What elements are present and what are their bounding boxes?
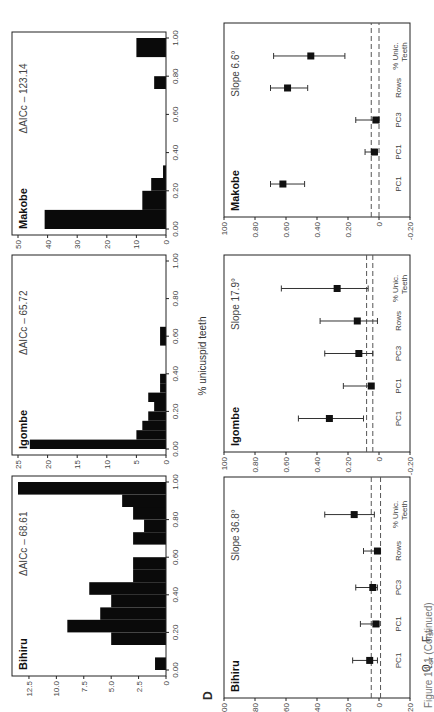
y-tick-label: 100	[220, 456, 229, 470]
y-tick-label: 0	[162, 459, 171, 464]
figure-caption: Figure 14.1 (Continued)	[423, 602, 434, 708]
panel-title: Bihiru	[229, 660, 241, 692]
y-tick-label: 20	[44, 459, 53, 468]
x-tick-label: 0.20	[171, 182, 180, 198]
histogram-bar	[111, 632, 166, 645]
y-tick-label: 12.5	[25, 680, 34, 696]
qst-panel-makobe: -0.2000.200.400.600.80100PC1PC1PC3Rows% …	[220, 23, 415, 240]
y-tick-label: 0.40	[313, 221, 322, 237]
category-label: Teeth	[400, 275, 409, 295]
x-tick-label: 0.00	[171, 662, 180, 678]
y-tick-label: 10	[132, 239, 141, 248]
histogram-bar	[154, 402, 166, 411]
y-tick-label: 0.60	[282, 456, 291, 472]
y-tick-label: 0.20	[344, 702, 353, 712]
qst-point	[372, 117, 379, 124]
y-tick-label: -0.20	[406, 456, 415, 475]
x-tick-label: 0.40	[171, 365, 180, 381]
figure-canvas: 0.000.200.400.600.801.0002.55.07.510.012…	[0, 0, 434, 712]
histogram-bar	[148, 393, 166, 402]
histogram-bar	[100, 607, 166, 619]
histogram-bar	[133, 532, 166, 544]
category-label: Rows	[394, 78, 403, 98]
qst-point	[366, 657, 373, 664]
y-tick-label: 0.80	[251, 221, 260, 237]
histogram-row: 0.000.200.400.600.801.0002.55.07.510.012…	[12, 30, 180, 697]
x-tick-label: 0.20	[171, 624, 180, 640]
rotated-figure: 0.000.200.400.600.801.0002.55.07.510.012…	[0, 0, 434, 712]
y-tick-label: 0.80	[251, 456, 260, 472]
x-tick-label: 0.60	[171, 549, 180, 565]
x-tick-label: 0.60	[171, 106, 180, 122]
x-tick-label: 1.00	[171, 253, 180, 269]
panel-title: Makobe	[229, 170, 241, 211]
qst-panel-bihiru: -0.2000.200.400.600.80100PC1PC1PC3Rows% …	[220, 477, 415, 712]
qst-point	[334, 285, 341, 292]
qst-point	[368, 383, 375, 390]
panel-title: Bihiru	[17, 638, 29, 670]
x-tick-label: 0.20	[171, 403, 180, 419]
histogram-bar	[142, 191, 166, 210]
histogram-bar	[45, 210, 166, 229]
qst-point	[371, 149, 378, 156]
y-tick-label: 0.20	[344, 456, 353, 472]
y-tick-label: 0.60	[282, 702, 291, 712]
qst-point	[354, 317, 361, 324]
category-label: % Unic.	[391, 501, 400, 529]
y-tick-label: 40	[44, 239, 53, 248]
histogram-bar	[136, 38, 166, 57]
y-tick-label: 100	[220, 221, 229, 235]
shared-x-axis-label: % unicuspid teeth	[197, 317, 208, 396]
x-tick-label: 0.80	[171, 290, 180, 306]
y-tick-label: 0	[375, 702, 384, 707]
histogram-bar	[111, 595, 166, 608]
delta-aicc-annotation: ΔAICc – 123.14	[18, 63, 29, 133]
qst-panel-igombe: -0.2000.200.400.600.80100PC1PC1PC3Rows% …	[220, 255, 415, 475]
y-tick-label: 10	[103, 459, 112, 468]
y-tick-label: 0.40	[313, 702, 322, 712]
panel-title: Makobe	[17, 188, 29, 229]
y-tick-label: 0.40	[313, 456, 322, 472]
category-label: PC1	[394, 616, 403, 632]
histogram-bar	[160, 383, 166, 392]
histogram-bar	[30, 440, 166, 449]
category-label: % Unic.	[391, 42, 400, 70]
y-tick-label: 0	[375, 456, 384, 461]
panel-title: Igombe	[229, 407, 241, 446]
x-tick-label: 0.00	[171, 441, 180, 457]
category-label: PC1	[394, 410, 403, 426]
histogram-igombe: 0.000.200.400.600.801.000510152025Igombe…	[12, 253, 180, 469]
y-tick-label: 0	[162, 239, 171, 244]
panel-title: Igombe	[17, 410, 29, 449]
category-label: PC3	[394, 579, 403, 595]
plot-frame	[224, 255, 410, 452]
y-tick-label: 25	[14, 459, 23, 468]
slope-annotation: Slope 36.8°	[230, 509, 241, 561]
qst-point	[372, 620, 379, 627]
y-tick-label: 50	[14, 239, 23, 248]
histogram-makobe: 0.000.200.400.600.801.0001020304050Makob…	[12, 30, 180, 249]
x-tick-label: 0.40	[171, 586, 180, 602]
slope-annotation: Slope 17.9°	[230, 278, 241, 330]
qst-point	[279, 181, 286, 188]
histogram-bar	[151, 178, 166, 191]
x-tick-label: 0.60	[171, 328, 180, 344]
y-tick-label: 0.80	[251, 702, 260, 712]
y-tick-label: -0.20	[406, 221, 415, 240]
category-label: Rows	[394, 541, 403, 561]
plot-frame	[224, 23, 410, 217]
panel-letter: D	[201, 691, 215, 700]
y-tick-label: 15	[73, 459, 82, 468]
histogram-bar	[122, 495, 166, 507]
qst-point	[374, 548, 381, 555]
qst-point	[326, 415, 333, 422]
histogram-bar	[133, 507, 166, 520]
category-label: PC1	[394, 176, 403, 192]
y-tick-label: 0.60	[282, 221, 291, 237]
category-label: PC3	[394, 112, 403, 128]
histogram-bar	[144, 520, 166, 533]
delta-aicc-annotation: ΔAICc – 65.72	[18, 290, 29, 355]
y-tick-label: -0.20	[406, 702, 415, 712]
histogram-bar	[154, 76, 166, 89]
histogram-bihiru: 0.000.200.400.600.801.0002.55.07.510.012…	[12, 474, 180, 697]
